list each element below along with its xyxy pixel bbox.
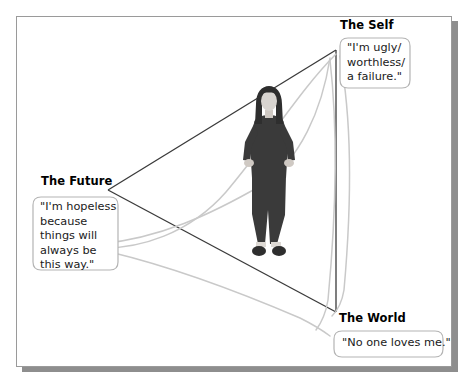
node-label-world: The World	[339, 311, 406, 325]
node-label-future: The Future	[41, 174, 112, 188]
node-label-self: The Self	[340, 18, 394, 32]
bubble-text-self: "I'm ugly/ worthless/ a failure."	[347, 41, 417, 85]
bubble-text-world: "No one loves me."	[342, 336, 447, 351]
bubble-text-future: "I'm hopeless because things will always…	[40, 200, 120, 273]
